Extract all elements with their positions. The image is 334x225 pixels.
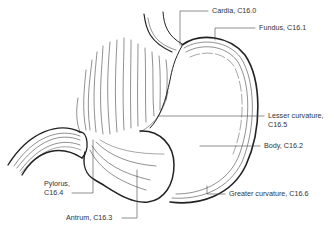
label-lesser-curvature-line2: C16.5 [268,121,287,130]
label-fundus: Fundus, C16.1 [259,24,306,33]
label-body: Body, C16.2 [264,142,303,151]
label-antrum: Antrum, C16.3 [66,214,112,223]
label-cardia: Cardia, C16.0 [212,7,256,16]
stomach-diagram: Cardia, C16.0 Fundus, C16.1 Lesser curva… [0,0,334,225]
label-greater-curvature: Greater curvature, C16.6 [229,190,309,199]
label-pylorus-line2: C16.4 [44,189,63,198]
